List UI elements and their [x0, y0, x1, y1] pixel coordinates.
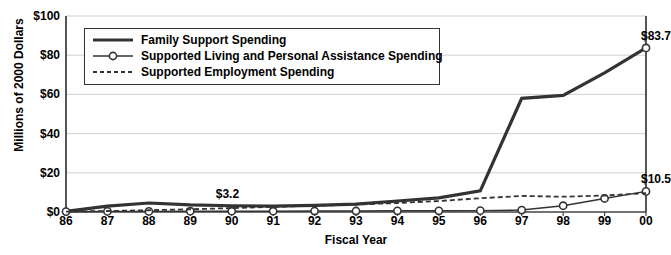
legend-item: Supported Employment Spending — [91, 64, 433, 80]
x-tick-label: 97 — [507, 215, 537, 228]
legend-item: Family Support Spending — [91, 32, 433, 48]
x-tick-label: 90 — [217, 215, 247, 228]
legend-label: Family Support Spending — [141, 33, 286, 47]
x-tick-label: 92 — [300, 215, 330, 228]
x-tick-label: 87 — [92, 215, 122, 228]
x-tick-label: 86 — [51, 215, 81, 228]
x-tick-label: 88 — [134, 215, 164, 228]
x-tick-label: 93 — [341, 215, 371, 228]
x-tick-label: 99 — [590, 215, 620, 228]
legend-swatch-icon — [91, 49, 135, 63]
value-annotation: $83.7 — [641, 30, 671, 42]
x-tick-label: 98 — [548, 215, 578, 228]
chart-container: Millions of 2000 Dollars $0$20$40$60$80$… — [0, 0, 671, 255]
x-tick-label: 00 — [631, 215, 661, 228]
value-annotation: $3.2 — [216, 188, 239, 200]
x-axis-title: Fiscal Year — [66, 233, 646, 247]
x-tick-label: 95 — [424, 215, 454, 228]
legend-label: Supported Employment Spending — [141, 65, 334, 79]
x-tick-label: 89 — [175, 215, 205, 228]
x-tick-label: 96 — [465, 215, 495, 228]
data-point-marker — [560, 202, 567, 209]
x-tick-label: 91 — [258, 215, 288, 228]
legend-swatch-icon — [91, 65, 135, 79]
data-point-marker — [518, 206, 525, 213]
legend: Family Support SpendingSupported Living … — [84, 28, 440, 85]
legend-marker-icon — [109, 52, 116, 59]
x-tick-label: 94 — [382, 215, 412, 228]
legend-swatch-icon — [91, 33, 135, 47]
data-point-marker — [642, 44, 649, 51]
legend-label: Supported Living and Personal Assistance… — [141, 49, 443, 63]
legend-item: Supported Living and Personal Assistance… — [91, 48, 433, 64]
value-annotation: $10.5 — [641, 173, 671, 185]
